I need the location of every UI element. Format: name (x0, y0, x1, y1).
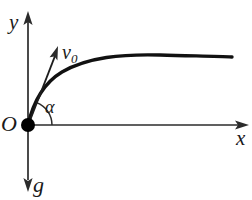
y-axis-label: y (9, 12, 18, 33)
origin-label: O (1, 113, 17, 135)
figure-canvas (0, 0, 252, 200)
gravity-arrow-icon (23, 178, 32, 192)
x-axis-label: x (236, 128, 245, 149)
velocity-symbol: v (62, 41, 71, 63)
velocity-subscript: 0 (71, 51, 78, 66)
gravity-label: g (33, 174, 44, 196)
x-axis (28, 120, 249, 129)
projectile-motion-figure: y x O g α v0 (0, 0, 252, 200)
angle-label: α (45, 98, 54, 116)
trajectory-curve (28, 55, 232, 125)
gravity-axis (23, 125, 32, 192)
origin-dot (21, 118, 35, 132)
velocity-label: v0 (62, 42, 77, 65)
